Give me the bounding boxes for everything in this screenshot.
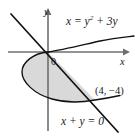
y-axis-label: y	[44, 7, 49, 18]
parabola-upper-branch	[48, 36, 134, 52]
line-equation-label: x + y = 0	[61, 116, 104, 128]
x-axis-arrow-icon	[123, 49, 130, 56]
parabola-equation-head: x = y	[66, 15, 90, 27]
origin-label: 0	[51, 57, 56, 67]
parabola-equation-label: x = y2 + 3y	[66, 16, 118, 28]
x-axis-label: x	[120, 57, 125, 68]
math-figure: x = y2 + 3y x + y = 0 (4, −4) 0 y x	[0, 0, 135, 137]
intersection-point-label: (4, −4)	[95, 86, 124, 97]
parabola-equation-tail: + 3y	[93, 15, 117, 27]
